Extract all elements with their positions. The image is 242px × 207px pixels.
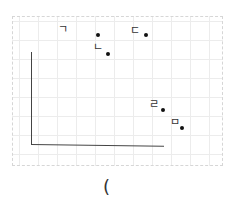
- point-label-mieum: ㅁ: [170, 117, 180, 128]
- point-dot-nieun: [106, 52, 110, 56]
- point-dot-giyeok: [96, 33, 100, 37]
- point-dot-mieum: [180, 126, 184, 130]
- point-label-nieun: ㄴ: [93, 42, 103, 53]
- cropped-text-fragment: · ·: [14, 0, 26, 4]
- point-label-digeut: ㄷ: [130, 25, 140, 36]
- point-label-rieul: ㄹ: [149, 99, 159, 110]
- caption-paren: (: [103, 176, 110, 197]
- point-dot-digeut: [144, 33, 148, 37]
- vertical-axis: [31, 52, 32, 145]
- point-dot-rieul: [161, 108, 165, 112]
- point-label-giyeok: ㄱ: [58, 24, 68, 35]
